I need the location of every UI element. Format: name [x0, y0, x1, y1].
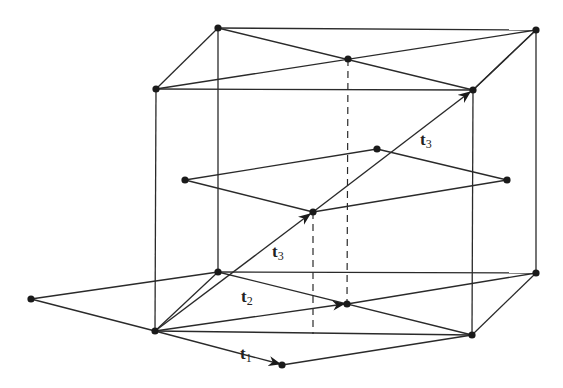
dashed-lines [313, 59, 348, 334]
lattice-diagram: t1 t2 t3 t3 [0, 0, 563, 388]
vector-t1 [155, 331, 280, 364]
label-t3-lower: t3 [272, 243, 284, 260]
middle-layer [185, 149, 507, 212]
lattice-svg [0, 0, 563, 388]
vertical-edges [155, 28, 536, 335]
label-t3-upper: t3 [420, 131, 432, 148]
lattice-nodes [27, 24, 539, 368]
label-t2: t2 [241, 288, 253, 305]
bottom-face [31, 272, 536, 365]
vector-t3-upper [313, 92, 470, 212]
vector-t2 [155, 304, 344, 331]
label-t1: t1 [240, 345, 252, 362]
